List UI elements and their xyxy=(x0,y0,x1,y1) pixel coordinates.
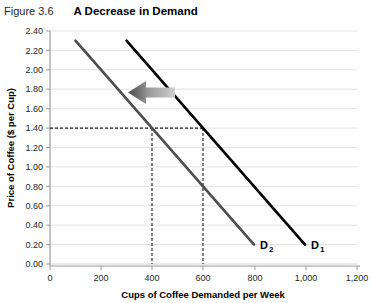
y-tick-label: 2.40 xyxy=(25,26,43,36)
x-tick-label: 0 xyxy=(47,273,52,283)
guide-lines xyxy=(50,128,203,264)
x-tick-label: 1,200 xyxy=(346,273,369,283)
y-tick-label: 1.20 xyxy=(25,143,43,153)
demand-curve-d1 xyxy=(127,41,306,245)
curve-label-d1-text: D xyxy=(311,239,319,251)
y-tick-label: 1.60 xyxy=(25,104,43,114)
y-tick-label: 0.00 xyxy=(25,259,43,269)
y-axis xyxy=(46,31,50,266)
curve-label-d1: D 1 xyxy=(311,239,325,254)
y-tick-label: 0.80 xyxy=(25,182,43,192)
demand-chart: #c9c9c9 xyxy=(0,0,371,303)
y-tick-label: 1.40 xyxy=(25,123,43,133)
shift-arrow-icon xyxy=(128,81,175,104)
demand-curve-d2 xyxy=(76,41,255,245)
figure-container: Figure 3.6A Decrease in Demand #c9c9c9 xyxy=(0,0,371,303)
x-tick-label: 1,000 xyxy=(295,273,318,283)
x-axis-title: Cups of Coffee Demanded per Week xyxy=(121,289,285,300)
y-tick-label: 1.80 xyxy=(25,84,43,94)
curve-label-d2: D 2 xyxy=(260,239,274,254)
x-axis xyxy=(50,266,360,270)
x-tick-label: 600 xyxy=(195,273,210,283)
y-tick-label: 1.00 xyxy=(25,162,43,172)
y-tick-label: 2.00 xyxy=(25,65,43,75)
y-tick-label: 2.20 xyxy=(25,46,43,56)
curve-label-d2-subscript: 2 xyxy=(269,245,274,254)
x-tick-labels: 0 200 400 600 800 1,000 1,200 xyxy=(47,273,368,283)
y-tick-labels: 0.00 0.20 0.40 0.60 0.80 1.00 1.20 1.40 … xyxy=(25,26,43,269)
curve-label-d2-text: D xyxy=(260,239,268,251)
x-tick-label: 200 xyxy=(93,273,108,283)
curve-label-d1-subscript: 1 xyxy=(320,245,325,254)
y-tick-label: 0.20 xyxy=(25,240,43,250)
y-tick-label: 0.40 xyxy=(25,220,43,230)
y-axis-title: Price of Coffee ($ per Cup) xyxy=(5,88,16,208)
x-tick-label: 400 xyxy=(144,273,159,283)
x-tick-label: 800 xyxy=(247,273,262,283)
y-tick-label: 0.60 xyxy=(25,201,43,211)
